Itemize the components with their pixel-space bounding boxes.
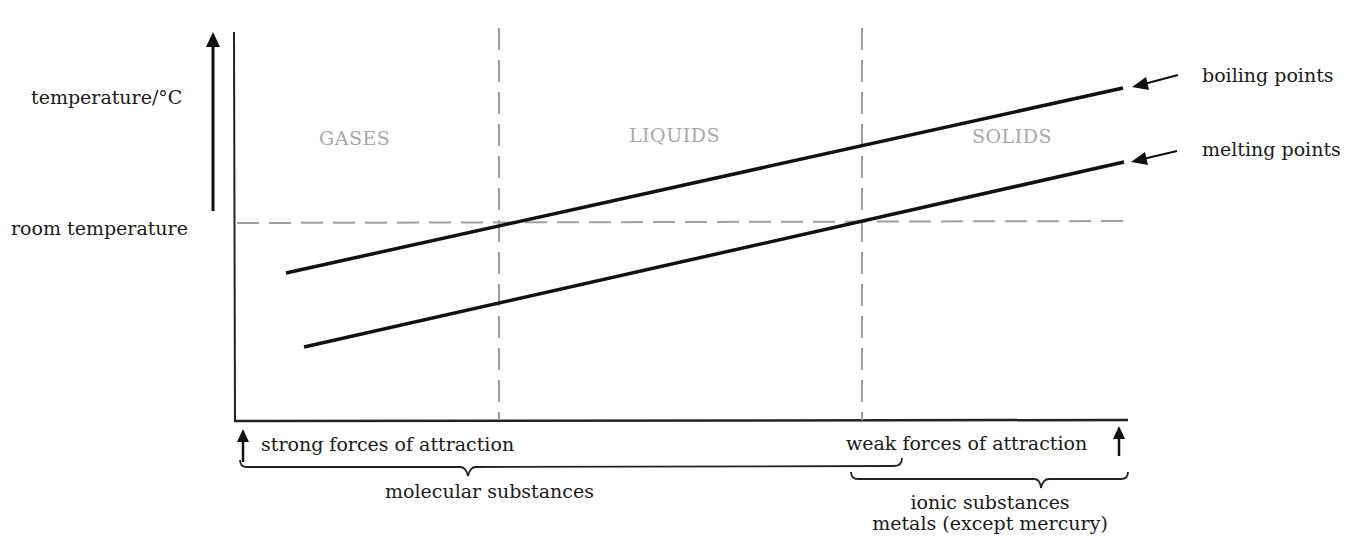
region-solids: SOLIDS bbox=[972, 125, 1052, 147]
room-temperature-label: room temperature bbox=[11, 217, 188, 239]
temperature-direction-arrow bbox=[206, 32, 220, 211]
strong-forces-arrow bbox=[237, 429, 249, 462]
molecular-brace bbox=[240, 458, 902, 476]
y-axis-label: temperature/°C bbox=[31, 86, 182, 108]
boiling-points-line bbox=[286, 88, 1123, 273]
room-temperature-line bbox=[237, 221, 1127, 223]
molecular-substances-label: molecular substances bbox=[385, 480, 594, 502]
region-liquids: LIQUIDS bbox=[629, 124, 720, 146]
melting-pointer-arrow bbox=[1131, 151, 1177, 165]
region-gases: GASES bbox=[319, 127, 390, 149]
strong-forces-label: strong forces of attraction bbox=[261, 433, 514, 455]
y-axis-line bbox=[234, 32, 235, 422]
weak-forces-label: weak forces of attraction bbox=[846, 432, 1087, 454]
boiling-points-label: boiling points bbox=[1202, 64, 1334, 86]
x-axis-line bbox=[234, 420, 1128, 421]
melting-points-label: melting points bbox=[1202, 138, 1341, 160]
diagram-canvas bbox=[0, 0, 1360, 542]
ionic-substances-label: ionic substances bbox=[890, 491, 1090, 513]
ionic-brace bbox=[851, 472, 1128, 488]
weak-forces-arrow bbox=[1113, 426, 1125, 456]
boiling-pointer-arrow bbox=[1132, 75, 1178, 90]
melting-points-line bbox=[304, 162, 1124, 347]
metals-label: metals (except mercury) bbox=[860, 512, 1120, 534]
